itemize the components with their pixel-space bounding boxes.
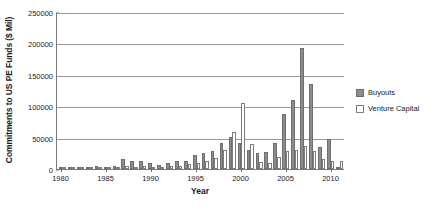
bar-venture-capital xyxy=(188,164,192,169)
bar-group xyxy=(255,13,264,169)
bar-group xyxy=(299,13,308,169)
bar-group xyxy=(76,13,85,169)
bar-venture-capital xyxy=(241,103,245,169)
bar-venture-capital xyxy=(98,167,102,169)
bar-group xyxy=(192,13,201,169)
y-axis-tick-label: 100000 xyxy=(28,103,53,112)
bar-venture-capital xyxy=(134,167,138,170)
x-axis-tick-labels: 1980198519901995200020052010 xyxy=(56,172,344,186)
bar-venture-capital xyxy=(313,151,317,169)
bar-venture-capital xyxy=(340,161,344,169)
bar-group xyxy=(281,13,290,169)
x-axis-tick-label: 2000 xyxy=(232,174,249,183)
bar-group xyxy=(147,13,156,169)
bar-group xyxy=(58,13,67,169)
bar-venture-capital xyxy=(179,166,183,169)
x-axis-tick-label: 2005 xyxy=(277,174,294,183)
y-axis-tick-label: 150000 xyxy=(28,71,53,80)
bar-venture-capital xyxy=(259,162,263,169)
x-axis-tick-mark xyxy=(151,169,152,172)
bar-group xyxy=(103,13,112,169)
bar-group xyxy=(219,13,228,169)
y-axis-title: Commitments to US PE Funds ($ Mil) xyxy=(4,17,14,163)
legend-swatch-filled-square-icon xyxy=(356,89,364,97)
bar-venture-capital xyxy=(322,159,326,169)
legend-item-venture-capital: Venture Capital xyxy=(356,104,436,113)
plot-area xyxy=(56,13,344,170)
x-axis-tick-label: 1985 xyxy=(97,174,114,183)
bar-group xyxy=(156,13,165,169)
bar-venture-capital xyxy=(170,166,174,169)
bar-venture-capital xyxy=(152,167,156,169)
bar-group xyxy=(273,13,282,169)
x-axis-tick-label: 1980 xyxy=(52,174,69,183)
bar-venture-capital xyxy=(286,151,290,169)
bar-group xyxy=(237,13,246,169)
x-axis-title: Year xyxy=(56,186,344,196)
bar-venture-capital xyxy=(107,167,111,169)
bar-venture-capital xyxy=(205,161,209,169)
bar-venture-capital xyxy=(161,167,165,169)
bar-venture-capital xyxy=(277,157,281,169)
bar-group xyxy=(326,13,335,169)
x-axis-tick-mark xyxy=(61,169,62,172)
legend-item-buyouts: Buyouts xyxy=(356,88,436,97)
bar-venture-capital xyxy=(197,163,201,169)
bar-group xyxy=(335,13,344,169)
bar-venture-capital xyxy=(232,132,236,169)
bar-venture-capital xyxy=(62,167,66,169)
bar-group xyxy=(121,13,130,169)
bar-venture-capital xyxy=(214,158,218,169)
bar-venture-capital xyxy=(125,166,129,169)
bar-venture-capital xyxy=(80,167,84,169)
bar-group xyxy=(67,13,76,169)
bar-group xyxy=(183,13,192,169)
x-axis-tick-mark xyxy=(241,169,242,172)
bar-venture-capital xyxy=(250,144,254,169)
bar-venture-capital xyxy=(304,146,308,169)
bar-group xyxy=(112,13,121,169)
x-axis-tick-mark xyxy=(106,169,107,172)
bar-venture-capital xyxy=(116,167,120,169)
legend-label-venture-capital: Venture Capital xyxy=(368,104,419,113)
bar-venture-capital xyxy=(295,150,299,169)
bar-venture-capital xyxy=(268,163,272,169)
bar-group xyxy=(201,13,210,169)
bar-group xyxy=(246,13,255,169)
x-axis-tick-mark xyxy=(331,169,332,172)
bar-venture-capital xyxy=(89,167,93,170)
bar-group xyxy=(94,13,103,169)
bar-group xyxy=(228,13,237,169)
bar-venture-capital xyxy=(71,167,75,169)
bar-group xyxy=(317,13,326,169)
legend-label-buyouts: Buyouts xyxy=(368,88,395,97)
y-axis-title-container: Commitments to US PE Funds ($ Mil) xyxy=(0,0,18,180)
x-axis-tick-mark xyxy=(286,169,287,172)
x-axis-tick-label: 2010 xyxy=(322,174,339,183)
bar-group xyxy=(210,13,219,169)
bar-group xyxy=(290,13,299,169)
bar-venture-capital xyxy=(331,161,335,169)
bar-group xyxy=(85,13,94,169)
bar-venture-capital xyxy=(143,166,147,169)
bar-group xyxy=(165,13,174,169)
y-axis-tick-label: 200000 xyxy=(28,40,53,49)
bar-groups xyxy=(57,13,344,169)
bar-venture-capital xyxy=(223,150,227,169)
bar-group xyxy=(130,13,139,169)
pe-funds-bar-chart: Commitments to US PE Funds ($ Mil) 05000… xyxy=(0,0,437,214)
y-axis-tick-label: 250000 xyxy=(28,9,53,18)
x-axis-tick-label: 1990 xyxy=(142,174,159,183)
chart-legend: Buyouts Venture Capital xyxy=(356,88,436,120)
x-axis-tick-mark xyxy=(196,169,197,172)
y-axis-tick-label: 50000 xyxy=(32,134,53,143)
y-axis-tick-labels: 050000100000150000200000250000 xyxy=(18,10,56,172)
bar-group xyxy=(138,13,147,169)
x-axis-tick-label: 1995 xyxy=(187,174,204,183)
bar-group xyxy=(174,13,183,169)
bar-group xyxy=(308,13,317,169)
bar-group xyxy=(264,13,273,169)
legend-swatch-hollow-square-icon xyxy=(356,105,364,113)
